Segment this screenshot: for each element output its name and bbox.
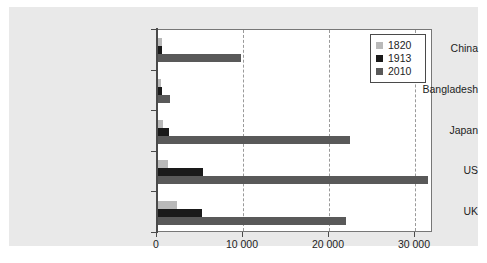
chart-canvas-panel: ChinaBangladeshJapanUSUK 010 00020 00030… [9, 7, 478, 246]
bar-bangladesh-2010 [157, 95, 170, 103]
bar-japan-1913 [157, 128, 169, 136]
y-tick-mark [151, 110, 157, 111]
x-tick-mark [156, 232, 157, 237]
y-tick-mark [151, 191, 157, 192]
bar-uk-1820 [157, 201, 177, 209]
x-tick-mark [242, 232, 243, 237]
x-tick-label-20000: 20 000 [312, 238, 344, 250]
bar-japan-2010 [157, 136, 350, 144]
legend-swatch-icon [376, 68, 383, 75]
y-tick-label-japan: Japan [342, 125, 478, 136]
x-tick-label-10000: 10 000 [226, 238, 258, 250]
y-tick-label-us: US [342, 165, 478, 176]
bar-us-1913 [157, 168, 203, 176]
bar-uk-2010 [157, 217, 346, 225]
legend-label: 1820 [388, 40, 411, 51]
legend-item: 1820 [376, 39, 420, 52]
x-tick-mark [414, 232, 415, 237]
y-tick-mark [151, 151, 157, 152]
x-tick-label-30000: 30 000 [398, 238, 430, 250]
chart-figure: ChinaBangladeshJapanUSUK 010 00020 00030… [0, 0, 487, 263]
gridline-x [243, 30, 244, 231]
y-tick-label-uk: UK [342, 206, 478, 217]
legend-swatch-icon [376, 55, 383, 62]
bar-uk-1913 [157, 209, 202, 217]
legend-item: 1913 [376, 52, 420, 65]
chart-legend: 1820 1913 2010 [370, 34, 426, 83]
y-tick-mark [151, 29, 157, 30]
x-tick-mark [328, 232, 329, 237]
gridline-x [329, 30, 330, 231]
bar-us-1820 [157, 160, 168, 168]
legend-label: 2010 [388, 66, 411, 77]
y-axis-spine [156, 28, 158, 233]
y-tick-mark [151, 70, 157, 71]
bar-us-2010 [157, 176, 428, 184]
y-tick-label-bangladesh: Bangladesh [342, 84, 478, 95]
legend-item: 2010 [376, 65, 420, 78]
legend-swatch-icon [376, 42, 383, 49]
bar-china-2010 [157, 54, 241, 62]
legend-label: 1913 [388, 53, 411, 64]
x-tick-label-0: 0 [153, 238, 159, 250]
